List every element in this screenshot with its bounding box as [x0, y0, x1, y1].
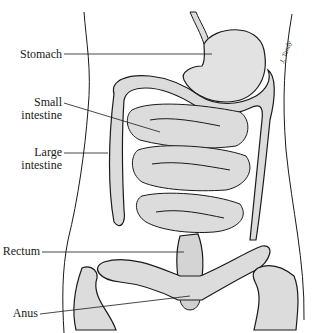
label-rectum: Rectum	[0, 245, 40, 258]
femur-right	[253, 266, 298, 330]
stomach	[183, 30, 265, 102]
label-stomach: Stomach	[6, 48, 62, 61]
small-intestine	[127, 104, 250, 232]
label-large-intestine: Large intestine	[6, 146, 62, 172]
label-small-intestine: Small intestine	[6, 96, 62, 122]
label-anus: Anus	[0, 307, 38, 320]
